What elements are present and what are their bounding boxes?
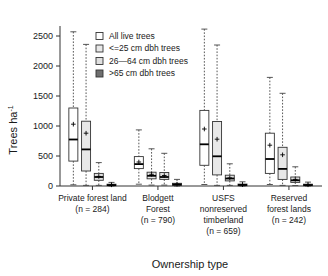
- y-axis-title: Trees ha-1: [7, 105, 19, 154]
- x-category-label: Reserved: [271, 193, 308, 203]
- y-tick-label: 2500: [33, 31, 53, 41]
- x-axis-title: Ownership type: [152, 258, 228, 270]
- box-iqr: [82, 121, 91, 171]
- x-category-label: (n = 659): [206, 226, 240, 236]
- box-iqr: [278, 147, 287, 179]
- x-category-label: USFS: [212, 193, 235, 203]
- x-category-label: (n = 790): [141, 215, 175, 225]
- box-iqr: [69, 108, 78, 161]
- chart-background: [0, 0, 328, 276]
- x-category-label: Forest: [146, 204, 171, 214]
- x-category-label: nonreserved: [200, 204, 248, 214]
- legend-label: 26—64 cm dbh trees: [109, 56, 188, 66]
- y-tick-label: 1500: [33, 91, 53, 101]
- chart-canvas: 05001000150020002500 Private forest land…: [0, 0, 328, 276]
- y-tick-label: 1000: [33, 121, 53, 131]
- x-category-label: forest lands: [267, 204, 311, 214]
- y-tick-label: 2000: [33, 61, 53, 71]
- legend-swatch: [96, 45, 103, 52]
- legend-swatch: [96, 58, 103, 65]
- box-iqr: [213, 122, 222, 175]
- legend-swatch: [96, 33, 103, 40]
- box-iqr: [265, 133, 274, 173]
- box-iqr: [200, 110, 209, 165]
- box-plot-chart: 05001000150020002500 Private forest land…: [0, 0, 328, 276]
- x-category-label: Blodgett: [142, 193, 174, 203]
- y-tick-label: 0: [48, 181, 53, 191]
- x-category-label: (n = 242): [272, 215, 306, 225]
- legend-label: >65 cm dbh trees: [109, 68, 175, 78]
- legend-swatch: [96, 70, 103, 77]
- y-tick-label: 500: [38, 151, 53, 161]
- x-category-label: (n = 284): [75, 204, 109, 214]
- legend-label: All live trees: [109, 31, 155, 41]
- x-category-label: timberland: [204, 215, 244, 225]
- legend-label: <=25 cm dbh trees: [109, 43, 180, 53]
- x-category-label: Private forest land: [58, 193, 127, 203]
